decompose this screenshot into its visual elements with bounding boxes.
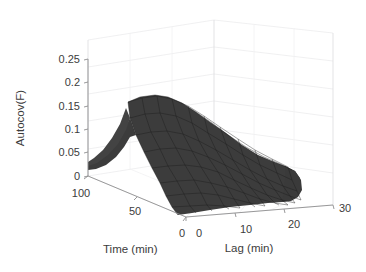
z-tick-2: 0.1	[65, 123, 80, 135]
lag-tick-30: 30	[339, 202, 351, 214]
time-tick-0: 0	[179, 227, 185, 239]
z-tick-1: 0.05	[59, 146, 80, 158]
time-axis-title: Time (min)	[103, 243, 158, 255]
z-tick-4: 0.2	[65, 76, 80, 88]
z-axis-ticks: 0 0.05 0.1 0.15 0.2 0.25	[59, 53, 88, 182]
lag-tick-10: 10	[240, 223, 252, 235]
lag-tick-20: 20	[288, 218, 300, 230]
autocovariance-surface	[88, 95, 302, 215]
z-axis-title: Autocov(F)	[14, 90, 26, 146]
time-tick-100: 100	[72, 187, 90, 199]
lag-axis-title: Lag (min)	[225, 242, 274, 254]
z-tick-3: 0.15	[59, 100, 80, 112]
time-tick-50: 50	[129, 205, 141, 217]
z-tick-5: 0.25	[59, 53, 80, 65]
figure-canvas: 0 0.05 0.1 0.15 0.2 0.25 Autocov(F) 100 …	[0, 0, 366, 272]
lag-tick-0: 0	[196, 227, 202, 239]
surface-plot-3d: 0 0.05 0.1 0.15 0.2 0.25 Autocov(F) 100 …	[0, 0, 366, 272]
z-tick-0: 0	[74, 170, 80, 182]
